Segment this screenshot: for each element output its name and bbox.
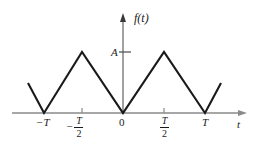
x-tick-label-T: T xyxy=(202,117,208,128)
y-axis-arrow-icon xyxy=(120,13,126,22)
figure-canvas: f(t) A t −T 0 T − T 2 T 2 xyxy=(0,0,256,149)
fraction-denominator: 2 xyxy=(162,129,167,139)
x-tick-label-zero: 0 xyxy=(119,117,125,128)
amplitude-label: A xyxy=(111,47,118,58)
y-axis-title-label: f(t) xyxy=(134,12,149,24)
fraction-numerator: T xyxy=(161,116,169,126)
fraction-denominator: 2 xyxy=(76,129,81,139)
fraction-numerator: T xyxy=(75,116,83,126)
x-tick-label-neg-T-over-2: − T 2 xyxy=(66,116,83,139)
fraction-stack: T 2 xyxy=(74,116,83,139)
x-axis-arrow-icon xyxy=(238,110,247,116)
fraction-stack: T 2 xyxy=(160,116,169,139)
waveform-triangular-series xyxy=(28,52,221,113)
x-axis-title-label: t xyxy=(237,119,240,130)
x-tick-label-neg-T: −T xyxy=(36,117,50,128)
x-tick-label-T-over-2: T 2 xyxy=(160,116,169,139)
fraction-sign: − xyxy=(66,116,73,132)
